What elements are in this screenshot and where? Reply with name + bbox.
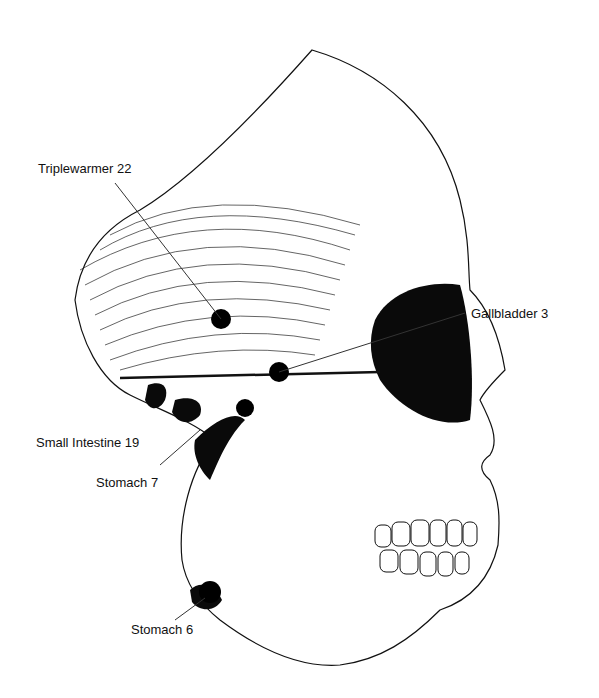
label-small-intestine-19: Small Intestine 19	[36, 435, 139, 450]
point-si19	[236, 399, 254, 417]
label-stomach-6: Stomach 6	[131, 622, 193, 637]
skull-diagram: Triplewarmer 22 Gallbladder 3 Small Inte…	[0, 0, 599, 698]
skull-illustration	[0, 0, 599, 698]
label-stomach-7: Stomach 7	[96, 475, 158, 490]
label-triplewarmer-22: Triplewarmer 22	[38, 161, 131, 176]
label-gallbladder-3: Gallbladder 3	[471, 306, 548, 321]
